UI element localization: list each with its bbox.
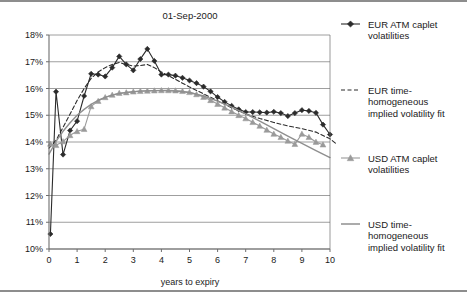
- legend-label: homogeneous: [368, 230, 428, 241]
- data-point-marker: [285, 138, 291, 143]
- data-point-marker: [271, 131, 277, 136]
- chart-title: 01-Sep-2000: [163, 10, 218, 21]
- x-tick-label: 8: [271, 255, 276, 265]
- series-line-3: [49, 91, 330, 158]
- data-point-marker: [271, 109, 276, 114]
- data-point-marker: [194, 81, 199, 86]
- data-point-marker: [285, 113, 290, 118]
- legend-label: USD time-: [368, 219, 412, 230]
- legend-diamond-icon: [347, 21, 353, 27]
- x-tick-label: 4: [159, 255, 164, 265]
- legend-label: homogeneous: [368, 96, 428, 107]
- data-point-marker: [257, 110, 262, 115]
- y-tick-label: 15%: [25, 110, 43, 120]
- data-point-marker: [180, 75, 185, 80]
- legend-label: implied volatility fit: [368, 242, 445, 253]
- legend-label: volatilities: [368, 30, 409, 41]
- data-point-marker: [306, 134, 312, 139]
- y-tick-label: 10%: [25, 244, 43, 254]
- legend-item[interactable]: USD ATM capletvolatilities: [341, 153, 438, 176]
- legend-label: volatilities: [368, 164, 409, 175]
- series-layer: [48, 46, 336, 236]
- y-tick-label: 12%: [25, 191, 43, 201]
- legend-label: implied volatility fit: [368, 108, 445, 119]
- data-point-marker: [250, 109, 255, 114]
- data-point-marker: [306, 108, 311, 113]
- data-point-marker: [96, 72, 101, 77]
- data-point-marker: [257, 123, 263, 128]
- data-point-marker: [299, 131, 305, 136]
- chart-canvas: 10%11%12%13%14%15%16%17%18%012345678910 …: [0, 2, 467, 292]
- legend-item[interactable]: EUR time-homogeneousimplied volatility f…: [341, 85, 445, 119]
- data-point-marker: [60, 152, 65, 157]
- y-tick-label: 11%: [26, 217, 43, 227]
- x-tick-label: 3: [131, 255, 136, 265]
- x-tick-label: 0: [46, 255, 51, 265]
- chart-legend: EUR ATM capletvolatilitiesEUR time-homog…: [341, 19, 445, 253]
- x-tick-label: 6: [215, 255, 220, 265]
- legend-label: EUR ATM caplet: [368, 19, 438, 30]
- data-point-marker: [313, 110, 318, 115]
- y-tick-label: 14%: [25, 137, 43, 147]
- y-tick-label: 18%: [25, 30, 43, 40]
- data-point-marker: [250, 119, 256, 124]
- data-point-marker: [53, 89, 58, 94]
- y-tick-label: 16%: [25, 84, 43, 94]
- data-point-marker: [299, 108, 304, 113]
- legend-label: USD ATM caplet: [368, 153, 438, 164]
- data-point-marker: [67, 132, 73, 137]
- chart-figure: 10%11%12%13%14%15%16%17%18%012345678910 …: [0, 0, 467, 292]
- data-point-marker: [81, 126, 87, 131]
- data-point-marker: [82, 93, 87, 98]
- data-point-marker: [229, 109, 235, 114]
- data-point-marker: [173, 73, 178, 78]
- data-point-marker: [152, 58, 157, 63]
- legend-label: EUR time-: [368, 85, 412, 96]
- data-point-marker: [187, 78, 192, 83]
- x-tick-label: 9: [299, 255, 304, 265]
- data-point-marker: [89, 71, 94, 76]
- data-point-marker: [264, 110, 269, 115]
- legend-item[interactable]: USD time-homogeneousimplied volatility f…: [341, 219, 445, 253]
- x-tick-label: 2: [103, 255, 108, 265]
- legend-item[interactable]: EUR ATM capletvolatilities: [341, 19, 438, 42]
- data-point-marker: [278, 134, 284, 139]
- y-tick-label: 17%: [25, 57, 43, 67]
- x-tick-label: 1: [75, 255, 80, 265]
- x-tick-label: 10: [325, 255, 335, 265]
- x-axis-label: years to expiry: [161, 277, 220, 287]
- x-tick-label: 5: [187, 255, 192, 265]
- x-tick-label: 7: [243, 255, 248, 265]
- data-point-marker: [243, 116, 249, 121]
- data-point-marker: [159, 72, 164, 77]
- y-tick-label: 13%: [25, 164, 43, 174]
- data-point-marker: [264, 127, 270, 132]
- axis-labels: 10%11%12%13%14%15%16%17%18%012345678910: [25, 30, 335, 265]
